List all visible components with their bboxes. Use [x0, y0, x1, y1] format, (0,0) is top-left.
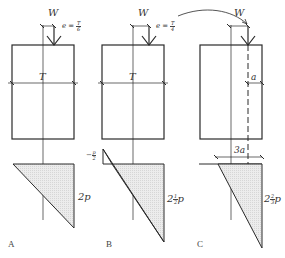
edge-distance-label-c: a	[251, 73, 256, 82]
pressure-min-label-b: − p 2	[86, 150, 96, 161]
eccentricity-label-b: e = T 4	[156, 21, 175, 32]
width-label-a: T	[39, 72, 46, 82]
load-label-a: W	[48, 8, 58, 18]
pressure-max-label-b: 2 1 2 p	[167, 194, 184, 205]
panel-c	[178, 10, 264, 248]
pressure-max-label-c: 2 2 3 p	[264, 194, 281, 205]
pressure-diagram-c	[218, 164, 262, 248]
pressure-max-label-a: 2p	[78, 192, 91, 202]
panel-b	[98, 24, 168, 242]
panel-letter-c: C	[197, 240, 203, 249]
eccentricity-label-a: e = T 6	[62, 21, 81, 32]
panel-letter-b: B	[106, 240, 112, 249]
diagram-canvas	[0, 0, 285, 258]
bearing-width-label-c: 3a	[234, 146, 245, 155]
width-label-b: T	[129, 72, 136, 82]
panel-letter-a: A	[8, 240, 15, 249]
load-label-c: W	[234, 8, 244, 18]
load-label-b: W	[138, 8, 148, 18]
panel-a	[8, 24, 78, 228]
pressure-diagram-a	[13, 164, 74, 228]
